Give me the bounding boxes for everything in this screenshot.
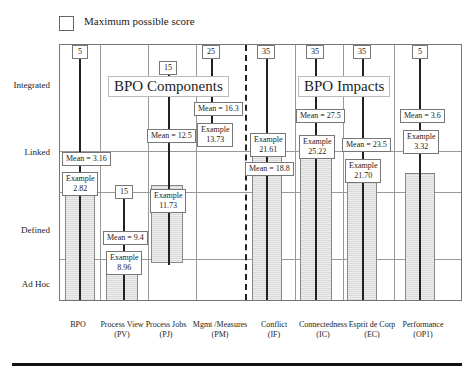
- example-label-pv: Example8.96: [106, 251, 142, 275]
- max-label-ic: 35: [306, 45, 324, 59]
- max-label-op1: 5: [412, 45, 428, 59]
- x-label-ec: Esprit de Corp(EC): [349, 320, 396, 340]
- plot-area: BPO Components BPO Impacts 5 15 15 25 35…: [59, 44, 462, 301]
- mean-label-pj: Mean = 12.5: [147, 129, 196, 143]
- mean-label-if: Mean = 18.8: [245, 162, 294, 176]
- max-label-pm: 25: [202, 45, 220, 59]
- x-label-bpo: BPO: [70, 320, 86, 330]
- mean-label-ec: Mean = 23.5: [342, 138, 391, 152]
- y-label-integrated: Integrated: [0, 80, 50, 90]
- max-label-ec: 35: [353, 45, 371, 59]
- x-label-ic: Connectedness(IC): [299, 320, 347, 340]
- example-label-ic: Example25.22: [299, 135, 335, 159]
- max-label-pj: 15: [159, 61, 177, 75]
- legend-label: Maximum possible score: [84, 15, 195, 27]
- mean-label-pv: Mean = 9.4: [103, 231, 148, 245]
- max-label-bpo: 5: [72, 45, 88, 59]
- example-label-if: Example21.61: [250, 133, 286, 157]
- x-label-pv: Process View(PV): [100, 320, 143, 340]
- x-label-pj: Process Jobs(PJ): [146, 320, 187, 340]
- example-label-pm: Example13.73: [197, 123, 233, 147]
- mean-label-op1: Mean = 3.6: [400, 109, 445, 123]
- x-label-if: Conflict(IF): [261, 320, 287, 340]
- y-label-linked: Linked: [0, 147, 50, 157]
- section-title-components: BPO Components: [108, 76, 229, 97]
- max-label-if: 35: [257, 45, 275, 59]
- example-label-pj: Example11.73: [150, 189, 186, 213]
- y-label-adhoc: Ad Hoc: [0, 279, 50, 289]
- legend-swatch: [59, 16, 74, 31]
- mean-label-pm: Mean = 16.3: [194, 102, 243, 116]
- max-label-pv: 15: [115, 185, 133, 199]
- example-label-op1: Example3.32: [403, 130, 439, 154]
- x-label-op1: Performance(OP1): [403, 320, 444, 340]
- x-label-pm: Mgmt /Measures(PM): [193, 320, 247, 340]
- example-label-ec: Example21.70: [345, 159, 381, 183]
- mean-label-ic: Mean = 27.5: [296, 109, 345, 123]
- y-label-defined: Defined: [0, 225, 50, 235]
- example-label-bpo: Example2.82: [62, 172, 98, 196]
- section-title-impacts: BPO Impacts: [298, 76, 390, 97]
- mean-label-bpo: Mean = 3.16: [62, 152, 111, 166]
